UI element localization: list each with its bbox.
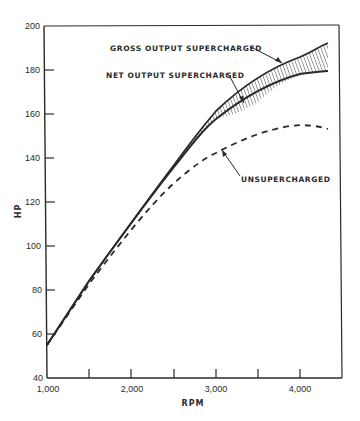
x-tick-3000: 3,000: [205, 384, 228, 394]
x-axis-ticks: [89, 369, 300, 378]
arrowhead-icon: [275, 57, 282, 63]
annotation-unsupercharged: UNSUPERCHARGED: [222, 150, 331, 184]
gross-output-supercharged-curve: [47, 43, 328, 345]
y-tick-140: 140: [25, 153, 40, 163]
x-tick-1000: 1,000: [37, 384, 60, 394]
x-axis-tick-labels: 1,000 2,000 3,000 4,000: [37, 384, 312, 394]
y-tick-40: 40: [33, 373, 43, 383]
annotation-net: NET OUTPUT SUPERCHARGED: [106, 71, 245, 103]
net-output-supercharged-curve: [47, 71, 328, 345]
y-tick-120: 120: [25, 197, 40, 207]
y-tick-100: 100: [26, 241, 41, 251]
hp-vs-rpm-chart: 200 180 160 140 120 100 80 60 40 1,000 2…: [0, 0, 360, 421]
y-axis-tick-labels: 200 180 160 140 120 100 80 60 40: [25, 21, 43, 383]
unsupercharged-curve: [47, 125, 328, 345]
x-axis-title: RPM: [182, 399, 205, 408]
gross-output-label: GROSS OUTPUT SUPERCHARGED: [110, 44, 262, 53]
x-tick-4000: 4,000: [289, 384, 312, 394]
x-tick-2000: 2,000: [121, 384, 144, 394]
y-tick-180: 180: [25, 65, 40, 75]
net-output-label: NET OUTPUT SUPERCHARGED: [106, 71, 245, 80]
y-tick-160: 160: [25, 109, 40, 119]
y-tick-60: 60: [32, 329, 42, 339]
y-axis-title: HP: [14, 204, 23, 219]
unsupercharged-label: UNSUPERCHARGED: [241, 175, 331, 184]
y-tick-200: 200: [25, 21, 40, 31]
y-tick-80: 80: [32, 285, 42, 295]
annotation-gross: GROSS OUTPUT SUPERCHARGED: [110, 44, 282, 63]
